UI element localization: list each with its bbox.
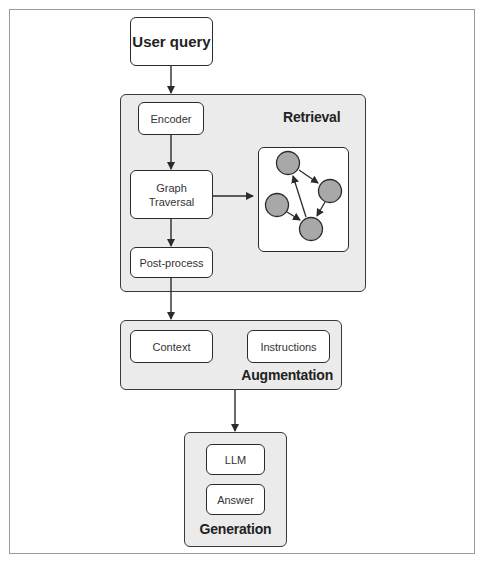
answer-node: Answer xyxy=(206,484,265,515)
encoder-label: Encoder xyxy=(151,112,192,126)
graph-panel xyxy=(258,147,349,252)
answer-label: Answer xyxy=(217,493,254,507)
post-process-label: Post-process xyxy=(139,256,203,270)
graph-traversal-node: Graph Traversal xyxy=(130,170,213,219)
encoder-node: Encoder xyxy=(138,102,204,135)
post-process-node: Post-process xyxy=(130,247,213,278)
graph-traversal-label-1: Graph xyxy=(156,181,187,195)
context-node: Context xyxy=(130,330,213,363)
retrieval-title: Retrieval xyxy=(283,109,340,125)
context-label: Context xyxy=(153,340,191,354)
generation-title: Generation xyxy=(185,521,286,537)
user-query-node: User query xyxy=(130,17,213,66)
llm-node: LLM xyxy=(206,444,265,475)
llm-label: LLM xyxy=(225,453,246,467)
instructions-label: Instructions xyxy=(260,340,316,354)
user-query-label: User query xyxy=(132,35,210,49)
augmentation-title: Augmentation xyxy=(241,367,333,383)
graph-traversal-label-2: Traversal xyxy=(149,195,194,209)
instructions-node: Instructions xyxy=(247,330,330,363)
